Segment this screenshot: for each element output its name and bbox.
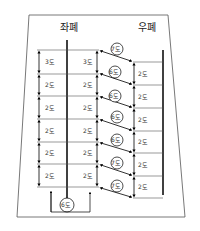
middle-labels: 3도 2도 2도 2도 2도 2도 <box>83 58 93 179</box>
svg-text:2도: 2도 <box>45 172 55 179</box>
svg-text:2도: 2도 <box>83 104 93 111</box>
svg-text:2도: 2도 <box>83 81 93 88</box>
svg-text:2도: 2도 <box>138 161 148 168</box>
svg-text:2도: 2도 <box>45 104 55 111</box>
title-left: 좌폐 <box>60 22 78 33</box>
svg-text:2도: 2도 <box>83 127 93 134</box>
svg-text:6도: 6도 <box>109 68 119 75</box>
svg-text:3도: 3도 <box>45 58 55 65</box>
bottom-circle-label: 6도 <box>61 201 71 208</box>
right-labels: 2도 2도 2도 2도 2도 2도 <box>138 70 148 190</box>
title-right: 우폐 <box>138 22 156 33</box>
svg-text:2도: 2도 <box>83 172 93 179</box>
svg-text:2도: 2도 <box>138 116 148 123</box>
svg-text:7도: 7도 <box>111 182 121 189</box>
svg-text:2도: 2도 <box>138 138 148 145</box>
left-labels: 3도 2도 2도 2도 2도 2도 <box>45 58 55 179</box>
svg-text:2도: 2도 <box>138 183 148 190</box>
svg-text:2도: 2도 <box>138 70 148 77</box>
svg-text:6도: 6도 <box>111 136 121 143</box>
svg-text:2도: 2도 <box>138 93 148 100</box>
svg-text:6도: 6도 <box>109 92 119 99</box>
svg-text:2도: 2도 <box>45 149 55 156</box>
svg-text:2도: 2도 <box>83 149 93 156</box>
left-grid <box>37 50 99 187</box>
svg-text:7도: 7도 <box>111 45 121 52</box>
svg-text:2도: 2도 <box>45 81 55 88</box>
lung-angle-diagram: 좌폐 우폐 <box>0 0 200 231</box>
svg-text:7도: 7도 <box>111 159 121 166</box>
svg-text:3도: 3도 <box>83 58 93 65</box>
right-grid <box>133 62 163 198</box>
svg-text:6도: 6도 <box>111 113 121 120</box>
svg-text:2도: 2도 <box>45 127 55 134</box>
